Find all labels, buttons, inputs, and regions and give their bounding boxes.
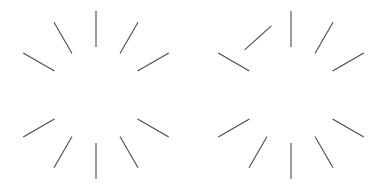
tick-4-oclock — [333, 119, 364, 137]
tick-7-oclock — [54, 137, 72, 168]
radial-tick-burst-right — [218, 11, 364, 179]
radial-figures-svg — [0, 0, 389, 186]
tick-1-oclock — [120, 22, 138, 53]
tick-2-oclock — [333, 53, 364, 71]
tick-2-oclock — [138, 53, 169, 71]
tick-11-oclock-rotated — [245, 26, 272, 50]
tick-5-oclock — [315, 137, 333, 168]
tick-7-oclock — [249, 137, 267, 168]
tick-10-oclock — [218, 53, 249, 71]
radial-tick-burst-left — [23, 11, 169, 179]
figure-canvas — [0, 0, 389, 186]
tick-10-oclock — [23, 53, 54, 71]
tick-1-oclock — [315, 22, 333, 53]
tick-5-oclock — [120, 137, 138, 168]
tick-8-oclock — [218, 119, 249, 137]
tick-8-oclock — [23, 119, 54, 137]
tick-11-oclock — [54, 22, 72, 53]
tick-4-oclock — [138, 119, 169, 137]
